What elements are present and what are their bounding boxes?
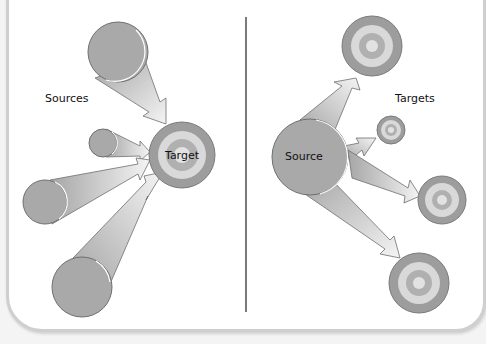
arrow-source-to-target3 [348, 150, 420, 203]
target-bullseye-1 [342, 16, 402, 76]
left-panel: Target Sources [23, 22, 215, 317]
source-circle-1 [88, 22, 148, 82]
right-panel: Source [272, 16, 466, 313]
source-label: Source [285, 150, 323, 163]
target-bullseye-4 [389, 253, 449, 313]
target-bullseye-3 [418, 176, 466, 224]
source-circle-2 [89, 129, 117, 157]
target-bullseye-2 [377, 116, 405, 144]
targets-label: Targets [394, 92, 435, 105]
source-circle-4 [52, 257, 112, 317]
source-circle-3 [23, 180, 67, 224]
target-label: Target [164, 149, 200, 162]
sources-label: Sources [45, 92, 89, 105]
